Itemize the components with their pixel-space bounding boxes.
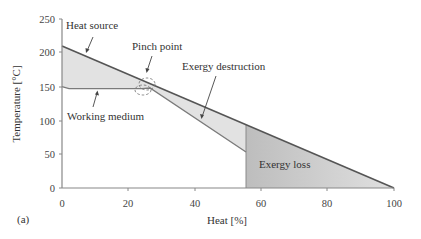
heat-source-label: Heat source — [66, 19, 118, 31]
working-medium-arrow-icon — [93, 93, 97, 107]
pinch-point-label: Pinch point — [132, 40, 182, 52]
x-tick-label: 100 — [386, 198, 402, 209]
x-tick-label: 60 — [256, 198, 267, 209]
x-tick-label: 80 — [322, 198, 333, 209]
panel-label: (a) — [17, 213, 30, 226]
y-tick-label: 150 — [39, 82, 55, 93]
exergy-destruction-label: Exergy destruction — [182, 60, 266, 72]
arrow-head-icon — [86, 48, 90, 53]
x-tick-label: 0 — [59, 198, 64, 209]
x-axis-label: Heat [%] — [207, 214, 247, 226]
pinch-diagram-chart: 0 50 100 150 200 250 0 20 40 60 80 100 H… — [0, 0, 421, 239]
arrow-head-icon — [95, 91, 99, 96]
working-medium-label: Working medium — [67, 110, 144, 122]
y-tick-label: 50 — [45, 149, 56, 160]
y-tick-label: 200 — [39, 47, 55, 58]
y-tick-label: 250 — [39, 14, 55, 25]
arrow-head-icon — [146, 68, 150, 73]
y-tick-label: 0 — [50, 183, 55, 194]
exergy-loss-label: Exergy loss — [259, 158, 310, 170]
y-axis-label: Temperature [°C] — [10, 65, 22, 142]
y-tick-label: 100 — [39, 116, 55, 127]
x-tick-label: 40 — [190, 198, 201, 209]
x-tick-label: 20 — [123, 198, 134, 209]
